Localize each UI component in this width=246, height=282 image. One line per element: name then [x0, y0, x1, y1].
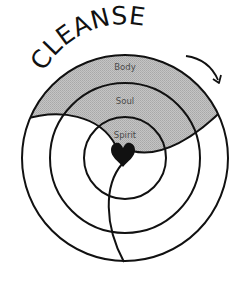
label-spirit: Spirit — [114, 130, 137, 140]
heart-stem — [109, 164, 124, 262]
label-soul: Soul — [116, 96, 134, 106]
label-body: Body — [114, 62, 135, 72]
cleanse-diagram: Body Soul Spirit CLEANSE — [0, 0, 246, 282]
curved-arrow-icon — [186, 56, 218, 80]
diagram-canvas: Body Soul Spirit CLEANSE — [0, 0, 246, 282]
